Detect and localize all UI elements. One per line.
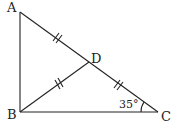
triangle-diagram: A B C D 35° <box>0 0 179 125</box>
label-b: B <box>7 107 17 122</box>
label-a: A <box>6 0 17 15</box>
angle-label-c: 35° <box>119 98 139 111</box>
angle-arc-c <box>141 102 144 112</box>
label-c: C <box>161 109 171 124</box>
label-d: D <box>91 51 101 66</box>
segment-bd <box>20 62 89 112</box>
